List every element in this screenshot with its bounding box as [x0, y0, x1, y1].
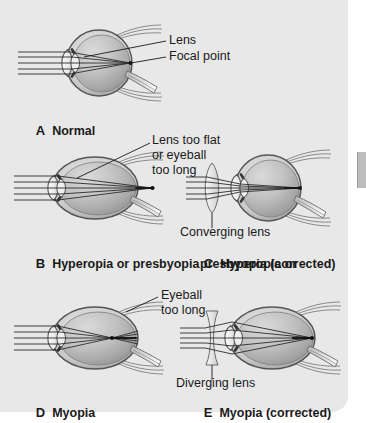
panel-b-hyperopia-eye — [14, 143, 164, 224]
label-lens-too-flat-line1: Lens too flat — [152, 134, 220, 147]
panel-c-focal-point-dot — [298, 186, 302, 190]
caption-a-letter: A — [36, 123, 45, 138]
panel-a-normal-eye — [18, 25, 166, 101]
caption-b: B Hyperopia or presbyopia — [18, 243, 199, 284]
caption-a: A Normal — [18, 110, 95, 151]
caption-b-letter: B — [36, 256, 45, 271]
caption-d-text: Myopia — [52, 406, 95, 420]
panel-c-hyperopia-corrected-eye — [186, 150, 331, 228]
panel-d-myopia-eye — [14, 297, 164, 374]
caption-b-text: Hyperopia or presbyopia — [52, 257, 199, 271]
caption-c-text-line2: presbyopia (corrected) — [200, 258, 335, 271]
figure-page: Lens Focal point A Normal Lens too flat … — [0, 0, 366, 423]
label-converging-lens: Converging lens — [180, 226, 270, 239]
panel-b-focal-point-dot — [150, 186, 154, 190]
caption-d-letter: D — [36, 405, 45, 420]
caption-e-text: Myopia (corrected) — [219, 406, 331, 420]
label-lens-too-flat-line2: or eyeball — [152, 149, 206, 162]
eye-diagram-illustration — [0, 0, 366, 423]
label-focal-point: Focal point — [169, 50, 230, 63]
label-diverging-lens: Diverging lens — [176, 377, 255, 390]
panel-d-focal-point-dot — [110, 336, 114, 340]
caption-a-text: Normal — [52, 124, 95, 138]
label-lens: Lens — [169, 34, 196, 47]
caption-d: D Myopia — [18, 392, 95, 423]
caption-e: E Myopia (corrected) — [186, 392, 331, 423]
label-eyeball-too-long-line1: Eyeball — [161, 289, 202, 302]
label-lens-too-flat-line3: too long — [152, 164, 196, 177]
label-eyeball-too-long-line2: too long — [161, 304, 205, 317]
panel-e-focal-point-dot — [310, 336, 314, 340]
leader-line-focal-point — [131, 57, 166, 63]
